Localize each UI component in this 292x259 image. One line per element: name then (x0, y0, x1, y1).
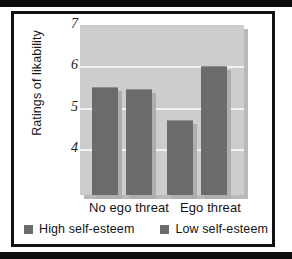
y-tick-label-4: 4 (56, 141, 78, 155)
y-axis-ticks: 7654 (52, 14, 78, 195)
figure-frame: 7654 Ratings of likability High self-est… (11, 11, 275, 247)
legend-swatch-icon (160, 225, 169, 234)
legend-label: Low self-esteem (175, 222, 268, 236)
x-group-label-1: Ego threat (180, 200, 241, 215)
top-rule-divider (0, 0, 292, 7)
legend-item-0[interactable]: High self-esteem (24, 222, 134, 236)
bar-ego-threat-low-self-esteem[interactable] (201, 66, 227, 195)
bottom-rule-divider (0, 252, 292, 259)
figure-root: 7654 Ratings of likability High self-est… (0, 0, 292, 259)
legend-label: High self-esteem (39, 222, 134, 236)
x-group-label-0: No ego threat (89, 200, 169, 215)
y-axis-title: Ratings of likability (30, 13, 44, 153)
y-tick-label-5: 5 (56, 100, 78, 114)
y-tick-label-7: 7 (56, 17, 78, 31)
bar-no-ego-threat-low-self-esteem[interactable] (126, 89, 152, 195)
legend-swatch-icon (24, 225, 33, 234)
bar-ego-threat-high-self-esteem[interactable] (167, 120, 193, 195)
y-tick-label-6: 6 (56, 58, 78, 72)
chart-legend: High self-esteemLow self-esteem (14, 222, 278, 236)
bar-chart: 7654 Ratings of likability High self-est… (14, 14, 278, 250)
legend-item-1[interactable]: Low self-esteem (160, 222, 268, 236)
bar-no-ego-threat-high-self-esteem[interactable] (92, 87, 118, 195)
